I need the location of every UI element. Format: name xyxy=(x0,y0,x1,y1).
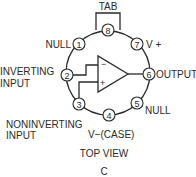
pin-3: 3 xyxy=(73,98,85,110)
pin-2-label-line2: INPUT xyxy=(0,78,30,89)
pin-5: 5 xyxy=(131,97,143,109)
tab-label: TAB xyxy=(99,1,118,12)
svg-text:6: 6 xyxy=(146,70,151,80)
pin-6: 6 xyxy=(143,68,155,80)
svg-text:1: 1 xyxy=(76,40,81,50)
view-title: TOP VIEW xyxy=(80,148,129,159)
noninverting-symbol: + xyxy=(100,78,105,88)
pin-2: 2 xyxy=(61,69,73,81)
svg-text:7: 7 xyxy=(134,40,139,50)
wire-noninverting xyxy=(79,82,98,99)
pin-7-label: V + xyxy=(146,39,161,50)
svg-text:3: 3 xyxy=(76,100,81,110)
svg-text:5: 5 xyxy=(134,99,139,109)
inverting-symbol: − xyxy=(101,59,106,69)
pin-3-label-line2: INPUT xyxy=(6,130,36,141)
pin-5-label: NULL xyxy=(145,105,171,116)
pin-2-label: INVERTING xyxy=(0,66,54,77)
pinout-svg: TAB − + 8 7 6 5 4 xyxy=(0,0,196,177)
pin-6-label: OUTPUT xyxy=(156,69,196,80)
pin-1: 1 xyxy=(73,38,85,50)
pinout-diagram: TAB − + 8 7 6 5 4 xyxy=(0,0,196,177)
pin-7: 7 xyxy=(131,38,143,50)
figure-caption: C xyxy=(100,166,107,177)
wire-inverting xyxy=(72,65,98,75)
pin-1-label: NULL xyxy=(45,39,71,50)
pin-8: 8 xyxy=(102,24,114,36)
pin-3-label: NONINVERTING xyxy=(6,119,83,130)
svg-text:4: 4 xyxy=(106,111,111,121)
pin-4-label: V−(CASE) xyxy=(88,129,134,140)
pin-4: 4 xyxy=(103,109,115,121)
svg-text:2: 2 xyxy=(64,71,69,81)
svg-text:8: 8 xyxy=(105,26,110,36)
